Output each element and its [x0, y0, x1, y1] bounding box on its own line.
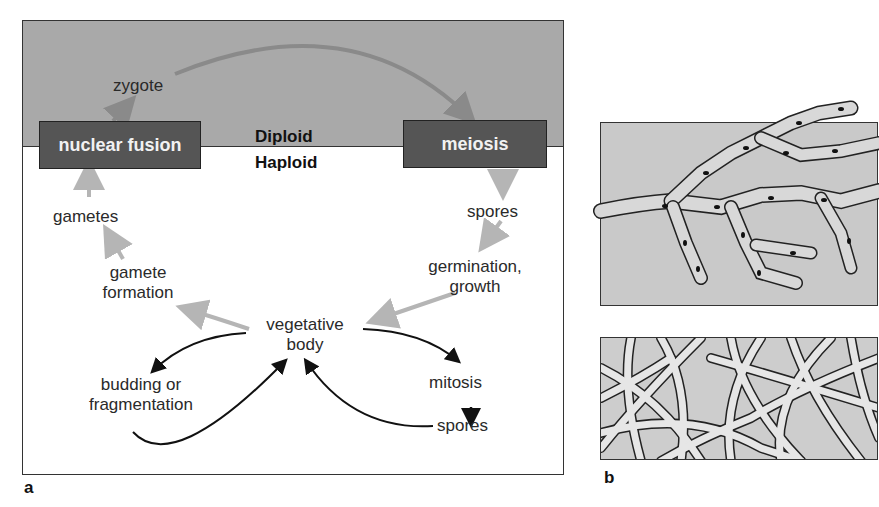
- germination-line-2: growth: [405, 277, 545, 297]
- gametes-label: gametes: [53, 207, 118, 227]
- nuclear-fusion-box: nuclear fusion: [39, 121, 201, 169]
- mitosis-label: mitosis: [429, 373, 482, 393]
- mycelium-network-image: [600, 337, 878, 460]
- vegetative-body-label: vegetative body: [245, 315, 365, 355]
- vegetative-line-1: vegetative: [245, 315, 365, 335]
- budding-line-1: budding or: [71, 375, 211, 395]
- hyphae-septate-image: [600, 122, 878, 306]
- vegetative-line-2: body: [245, 335, 365, 355]
- hyphae-illustration-icon: [601, 83, 879, 267]
- germination-label: germination, growth: [405, 257, 545, 297]
- germination-line-1: germination,: [405, 257, 545, 277]
- panel-b-letter: b: [604, 468, 614, 488]
- mycelium-illustration-icon: [601, 338, 878, 460]
- diploid-label: Diploid: [255, 127, 313, 147]
- spores-bottom-label: spores: [437, 416, 488, 436]
- budding-label: budding or fragmentation: [71, 375, 211, 415]
- zygote-label: zygote: [113, 76, 163, 96]
- gamete-formation-line-2: formation: [83, 283, 193, 303]
- meiosis-box: meiosis: [403, 120, 547, 168]
- haploid-label: Haploid: [255, 153, 317, 173]
- panel-a-letter: a: [24, 478, 33, 498]
- life-cycle-panel: nuclear fusion meiosis Diploid Haploid z…: [22, 20, 564, 475]
- gamete-formation-line-1: gamete: [83, 263, 193, 283]
- gamete-formation-label: gamete formation: [83, 263, 193, 303]
- spores-top-label: spores: [467, 202, 518, 222]
- budding-line-2: fragmentation: [71, 395, 211, 415]
